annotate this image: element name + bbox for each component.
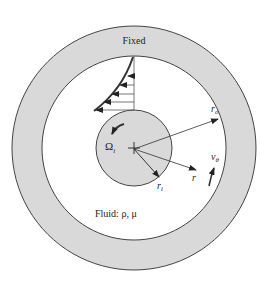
- v-theta-label: vθ: [211, 151, 219, 164]
- v-theta-arrow-icon: [209, 168, 214, 186]
- fluid-properties-label: Fluid: ρ, μ: [95, 208, 137, 219]
- fixed-label: Fixed: [123, 35, 146, 46]
- r-label: r: [192, 172, 196, 183]
- couette-flow-diagram: Fixed Ωi ro r ri vθ Fluid: ρ, μ: [0, 0, 271, 287]
- velocity-profile-curve: [94, 57, 133, 111]
- r-i-label: ri: [157, 180, 163, 193]
- diagram-canvas: Fixed Ωi ro r ri vθ Fluid: ρ, μ: [0, 0, 271, 287]
